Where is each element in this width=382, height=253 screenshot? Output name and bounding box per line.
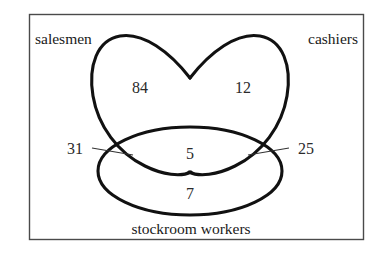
region-count-salesmen-only: 84 (132, 79, 148, 96)
region-count-all-three: 5 (186, 145, 194, 162)
set-label-salesmen: salesmen (35, 30, 92, 47)
region-count-cashiers-only: 12 (235, 79, 251, 96)
region-count-salesmen-stockroom: 31 (67, 140, 83, 157)
region-count-stockroom-only: 7 (186, 185, 194, 202)
region-count-cashiers-stockroom: 25 (298, 140, 314, 157)
set-label-cashiers: cashiers (308, 30, 358, 47)
set-label-stockroom-workers: stockroom workers (131, 220, 250, 237)
venn-diagram-figure: salesmen cashiers stockroom workers 84 1… (0, 0, 382, 253)
